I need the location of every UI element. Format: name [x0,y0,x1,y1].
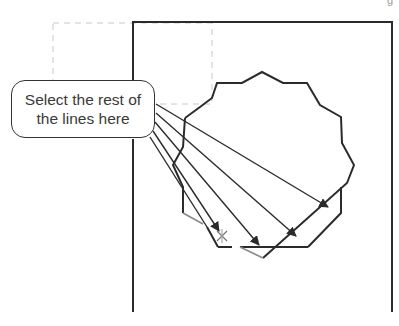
instruction-callout: Select the rest of the lines here [11,80,155,138]
polygon-b[interactable] [240,187,341,247]
corner-label: g [387,0,393,6]
polygon-a[interactable] [185,72,354,258]
leader-arrow [156,104,328,207]
leader-arrow [153,131,219,231]
polygon-b-bottom-left[interactable] [207,227,232,247]
callout-line-1: Select the rest of [25,90,141,109]
selected-segment[interactable] [240,247,263,258]
cad-canvas[interactable] [0,0,399,326]
polygon-a-left[interactable] [173,118,185,213]
callout-line-2: the lines here [36,109,129,128]
